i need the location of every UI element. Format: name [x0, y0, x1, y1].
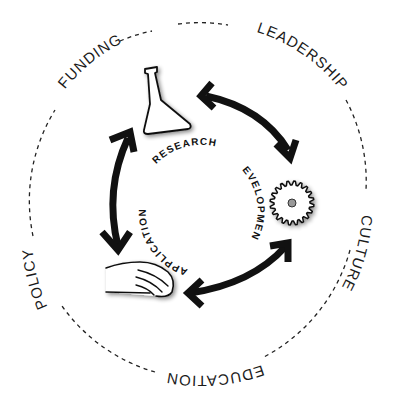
label-culture: CULTURE [339, 214, 376, 294]
outer-labels: FUNDING LEADERSHIP CULTURE EDUCATION POL… [18, 18, 375, 389]
gear-hub [288, 199, 296, 207]
flask-icon [144, 67, 191, 134]
innovation-cycle-diagram: FUNDING LEADERSHIP CULTURE EDUCATION POL… [0, 0, 397, 406]
arrow-development-application [188, 243, 288, 306]
label-development: DEVELOPMENT [0, 0, 267, 242]
hand-icon [106, 262, 173, 297]
gear-icon [270, 181, 314, 225]
arrow-application-research [102, 132, 134, 250]
label-leadership: LEADERSHIP [255, 18, 352, 93]
label-education: EDUCATION [165, 362, 267, 390]
label-research: RESEARCH [150, 136, 218, 166]
label-funding: FUNDING [54, 30, 124, 91]
label-policy: POLICY [18, 248, 50, 313]
